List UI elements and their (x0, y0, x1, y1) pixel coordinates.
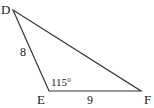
vertex-label-f: F (144, 92, 151, 107)
angle-label-e: 115° (51, 76, 72, 88)
side-length-de: 8 (20, 45, 26, 59)
vertex-label-d: D (1, 2, 10, 17)
side-length-ef: 9 (87, 93, 93, 107)
triangle-def (13, 10, 141, 91)
vertex-label-e: E (37, 92, 45, 107)
triangle-diagram: D E F 8 9 115° (0, 0, 154, 108)
